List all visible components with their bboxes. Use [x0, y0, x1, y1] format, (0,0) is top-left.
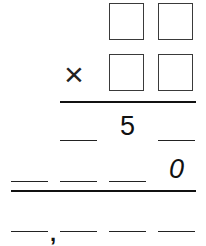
final-hundreds-blank[interactable]	[60, 231, 97, 232]
multiplier-tens-box[interactable]	[109, 54, 144, 91]
multiplicand-ones-box[interactable]	[158, 3, 193, 40]
product-divider-line	[60, 101, 196, 103]
multiplicand-tens-box[interactable]	[109, 3, 144, 40]
final-tens-blank[interactable]	[109, 231, 146, 232]
partial2-hundreds-blank[interactable]	[60, 181, 97, 182]
thousands-comma: ,	[50, 223, 56, 245]
partial2-tens-blank[interactable]	[109, 181, 146, 182]
partial1-hundreds-blank[interactable]	[60, 140, 97, 141]
sum-divider-line	[11, 190, 196, 192]
partial2-ones-digit: 0	[158, 156, 195, 183]
multiply-sign-icon: ×	[64, 57, 84, 91]
final-thousands-blank[interactable]	[11, 231, 48, 232]
final-ones-blank[interactable]	[158, 231, 195, 232]
partial1-ones-blank[interactable]	[158, 140, 195, 141]
multiplier-ones-box[interactable]	[158, 54, 193, 91]
partial2-thousands-blank[interactable]	[11, 181, 48, 182]
partial1-tens-digit: 5	[109, 113, 146, 140]
